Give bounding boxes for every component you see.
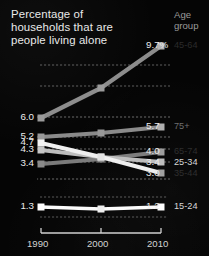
marker-75plus-1990 [38, 134, 45, 141]
marker-25-34-1990 [38, 161, 45, 168]
x-tick-2010: 2010 [147, 238, 168, 249]
legend-title-line1: Age [174, 9, 209, 20]
marker-65-74-1990 [38, 140, 45, 147]
right-value-65-74: 3.0 [146, 168, 160, 178]
x-tick-2000: 2000 [87, 238, 108, 249]
marker-75plus-2000 [98, 130, 105, 137]
right-value-25-34: 4.0 [146, 146, 160, 156]
chart-canvas: Percentage of households that are people… [0, 0, 209, 256]
right-value-75plus: 5.7 [146, 121, 160, 131]
legend-label-25-34: 25-34 [174, 157, 198, 167]
left-value-35-44: 4.3 [4, 144, 34, 154]
legend-label-45-64: 45-64 [174, 40, 198, 50]
marker-35-44-1990 [38, 147, 45, 154]
page-title: Percentage of households that are people… [11, 8, 136, 48]
legend-title: Age group [174, 9, 209, 31]
x-tick-1990: 1990 [27, 238, 48, 249]
left-value-15-24: 1.3 [4, 201, 34, 211]
right-value-15-24: 1.2 [146, 201, 160, 211]
legend-label-15-24: 15-24 [174, 201, 198, 211]
marker-15-24-2000 [98, 206, 105, 213]
left-value-45-64: 6.0 [4, 112, 34, 122]
legend-label-35-44: 35-44 [174, 168, 198, 178]
marker-65-74-2000 [98, 154, 105, 161]
legend-label-75plus: 75+ [174, 121, 190, 131]
left-value-25-34: 3.4 [4, 158, 34, 168]
marker-45-64-2000 [98, 85, 105, 92]
x-axis [41, 228, 161, 233]
right-value-45-64: 9.7% [146, 40, 168, 50]
marker-15-24-1990 [38, 204, 45, 211]
series-line-45-64 [38, 43, 165, 122]
legend-label-65-74: 65-74 [174, 146, 198, 156]
marker-45-64-1990 [38, 115, 45, 122]
right-value-35-44: 3.4 [146, 157, 160, 167]
legend-title-line2: group [174, 20, 209, 31]
